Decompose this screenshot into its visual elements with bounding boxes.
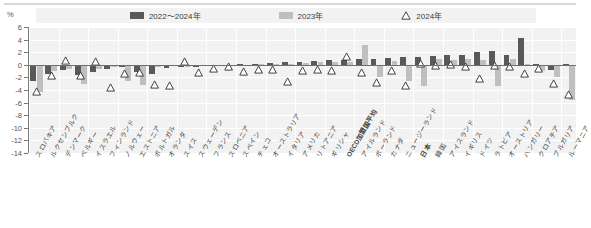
marker-2024-33 bbox=[520, 64, 529, 82]
light-bar-swatch-icon bbox=[279, 12, 293, 19]
y-axis-line bbox=[28, 27, 29, 153]
marker-2024-1 bbox=[47, 66, 56, 84]
bar-2023-22 bbox=[362, 45, 368, 65]
y-tick-label--4: -4 bbox=[2, 86, 22, 95]
marker-2024-11 bbox=[194, 63, 203, 81]
y-axis-unit-label: % bbox=[7, 10, 14, 19]
marker-2024-2 bbox=[61, 51, 70, 69]
gridline-v-22 bbox=[354, 27, 355, 153]
marker-2024-13 bbox=[224, 58, 233, 76]
dark-bar-swatch-icon bbox=[130, 12, 144, 19]
legend-item-2024: 2024年 bbox=[401, 10, 442, 21]
gridline-v-14 bbox=[236, 27, 237, 153]
bar-2022-2024-0 bbox=[30, 65, 36, 81]
marker-2024-21 bbox=[342, 47, 351, 65]
legend-label-2022-2024: 2022〜2024年 bbox=[149, 10, 201, 21]
y-tick-0 bbox=[24, 65, 28, 66]
gridline-v-26 bbox=[413, 27, 414, 153]
chart-legend: 2022〜2024年 2023年 2024年 bbox=[36, 8, 536, 23]
gridline-v-16 bbox=[266, 27, 267, 153]
y-tick-label--10: -10 bbox=[2, 124, 22, 133]
y-tick--6 bbox=[24, 103, 28, 104]
marker-2024-25 bbox=[401, 76, 410, 94]
y-tick--2 bbox=[24, 77, 28, 78]
marker-2024-5 bbox=[106, 78, 115, 96]
marker-2024-9 bbox=[165, 77, 174, 95]
y-tick-label--6: -6 bbox=[2, 99, 22, 108]
gridline-v-0 bbox=[29, 27, 30, 153]
gridline-v-32 bbox=[502, 27, 503, 153]
marker-2024-24 bbox=[387, 61, 396, 79]
bar-2022-2024-25 bbox=[400, 57, 406, 65]
gridline-v-28 bbox=[443, 27, 444, 153]
marker-2024-4 bbox=[91, 52, 100, 70]
marker-2024-19 bbox=[313, 60, 322, 78]
y-tick-label-4: 4 bbox=[2, 36, 22, 45]
marker-2024-23 bbox=[372, 73, 381, 91]
y-tick-6 bbox=[24, 27, 28, 28]
gridline-h--6 bbox=[29, 103, 576, 104]
bar-2022-2024-30 bbox=[474, 52, 480, 65]
y-tick--4 bbox=[24, 90, 28, 91]
y-tick-2 bbox=[24, 52, 28, 53]
bar-2022-2024-8 bbox=[149, 65, 155, 74]
zero-baseline bbox=[29, 65, 576, 66]
marker-2024-35 bbox=[549, 74, 558, 92]
gridline-h-4 bbox=[29, 40, 576, 41]
marker-2024-16 bbox=[268, 60, 277, 78]
gridline-v-12 bbox=[206, 27, 207, 153]
y-tick--10 bbox=[24, 128, 28, 129]
y-tick--8 bbox=[24, 115, 28, 116]
marker-2024-17 bbox=[283, 72, 292, 90]
legend-item-2022-2024: 2022〜2024年 bbox=[130, 10, 201, 21]
marker-2024-20 bbox=[327, 61, 336, 79]
legend-label-2024: 2024年 bbox=[416, 10, 442, 21]
bar-2022-2024-33 bbox=[518, 38, 524, 65]
y-tick-label-2: 2 bbox=[2, 48, 22, 57]
marker-2024-32 bbox=[505, 58, 514, 76]
marker-2024-30 bbox=[475, 70, 484, 88]
y-tick-label--2: -2 bbox=[2, 73, 22, 82]
y-tick-label--8: -8 bbox=[2, 111, 22, 120]
legend-label-2023: 2023年 bbox=[298, 10, 324, 21]
marker-2024-6 bbox=[120, 64, 129, 82]
legend-item-2023: 2023年 bbox=[279, 10, 324, 21]
marker-2024-0 bbox=[32, 82, 41, 100]
gridline-h-6 bbox=[29, 27, 576, 28]
gridline-v-18 bbox=[295, 27, 296, 153]
marker-2024-15 bbox=[254, 60, 263, 78]
marker-2024-26 bbox=[416, 55, 425, 73]
marker-2024-34 bbox=[534, 60, 543, 78]
y-tick-4 bbox=[24, 40, 28, 41]
marker-2024-29 bbox=[461, 57, 470, 75]
gridline-v-8 bbox=[147, 27, 148, 153]
triangle-marker-icon bbox=[401, 11, 411, 20]
marker-2024-10 bbox=[180, 52, 189, 70]
marker-2024-3 bbox=[76, 67, 85, 85]
x-axis-labels: スロバキアルクセンブルクデンマークベルギーイスラエルフィンランドノルウェーエスト… bbox=[0, 153, 580, 228]
gridline-v-36 bbox=[561, 27, 562, 153]
y-tick--12 bbox=[24, 140, 28, 141]
marker-2024-12 bbox=[209, 59, 218, 77]
marker-2024-22 bbox=[357, 63, 366, 81]
y-tick-label-6: 6 bbox=[2, 23, 22, 32]
y-tick-label--12: -12 bbox=[2, 136, 22, 145]
marker-2024-8 bbox=[150, 75, 159, 93]
marker-2024-18 bbox=[298, 61, 307, 79]
top-divider bbox=[4, 3, 576, 5]
y-tick-label-0: 0 bbox=[2, 61, 22, 70]
marker-2024-36 bbox=[564, 85, 573, 103]
gridline-v-4 bbox=[88, 27, 89, 153]
